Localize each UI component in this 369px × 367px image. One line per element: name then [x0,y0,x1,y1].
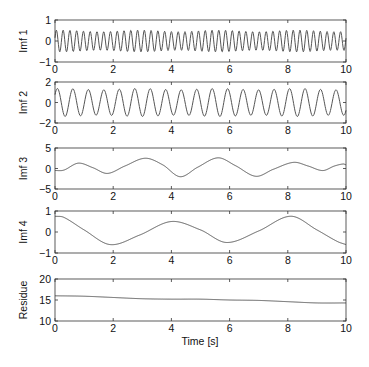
x-tick-label: 4 [168,322,174,334]
y-tick-label: 0 [45,35,51,47]
y-tick-label: 1 [45,205,51,217]
axes-imf-3: 0246810−505Imf 3 [17,142,352,202]
x-tick-label: 8 [285,63,291,75]
x-tick-label: 0 [52,124,58,136]
x-tick-label: 4 [168,63,174,75]
axes-imf-4: 0246810−101Imf 4 [17,205,352,266]
x-tick-label: 8 [285,190,291,202]
data-line [55,89,346,117]
x-tick-label: 8 [285,254,291,266]
y-tick-label: 2 [45,76,51,88]
x-tick-label: 2 [110,322,116,334]
data-line [55,158,346,177]
x-axis-label: Time [s] [182,335,219,347]
x-tick-label: 6 [227,124,233,136]
y-tick-label: 0 [45,163,51,175]
x-tick-label: 8 [285,322,291,334]
axes-frame [55,148,346,189]
x-tick-label: 2 [110,254,116,266]
data-line [55,216,346,244]
x-tick-label: 6 [227,190,233,202]
y-tick-label: 0 [45,97,51,109]
x-tick-label: 4 [168,254,174,266]
y-tick-label: −5 [39,183,51,195]
data-line [55,296,346,303]
x-tick-label: 2 [110,124,116,136]
emd-figure: 0246810−101Imf 1 0246810−202Imf 2 024681… [0,0,369,367]
x-tick-label: 8 [285,124,291,136]
x-tick-label: 6 [227,254,233,266]
x-tick-label: 10 [340,190,352,202]
axes-frame [55,211,346,253]
axes-imf-2: 0246810−202Imf 2 [17,76,352,136]
x-tick-label: 2 [110,190,116,202]
axes-imf-1: 0246810−101Imf 1 [17,14,352,75]
x-tick-label: 0 [52,190,58,202]
y-tick-label: −2 [39,117,51,129]
y-axis-label: Imf 1 [17,29,29,52]
y-axis-label: Residue [17,281,29,320]
y-tick-label: 15 [39,294,51,306]
x-tick-label: 0 [52,322,58,334]
x-tick-label: 10 [340,63,352,75]
y-axis-label: Imf 4 [17,220,29,243]
y-tick-label: 1 [45,14,51,26]
data-line [55,30,346,52]
axes-residue: 0246810101520Residue [17,273,352,334]
y-tick-label: 20 [39,273,51,285]
y-axis-label: Imf 3 [17,157,29,180]
y-tick-label: 10 [39,315,51,327]
y-axis-label: Imf 2 [17,91,29,114]
x-tick-label: 4 [168,190,174,202]
x-tick-label: 10 [340,254,352,266]
y-tick-label: −1 [39,247,51,259]
x-tick-label: 6 [227,63,233,75]
x-tick-label: 6 [227,322,233,334]
axes-frame [55,279,346,321]
x-tick-label: 0 [52,254,58,266]
x-tick-label: 0 [52,63,58,75]
y-tick-label: 5 [45,142,51,154]
x-tick-label: 10 [340,124,352,136]
y-tick-label: 0 [45,226,51,238]
x-tick-label: 4 [168,124,174,136]
x-tick-label: 2 [110,63,116,75]
y-tick-label: −1 [39,56,51,68]
x-tick-label: 10 [340,322,352,334]
